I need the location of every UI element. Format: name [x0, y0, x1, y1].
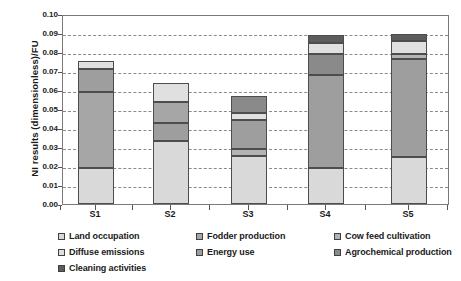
- y-axis-tick-0-04: 0.04: [24, 125, 58, 133]
- legend-swatch-icon: [58, 249, 65, 256]
- legend-swatch-icon: [196, 233, 203, 240]
- bar-segment[interactable]: [231, 113, 267, 121]
- bar-segment[interactable]: [78, 168, 114, 204]
- y-axis-tick-0-05: 0.05: [24, 106, 58, 114]
- y-axis-tick-0-06: 0.06: [24, 87, 58, 95]
- legend-swatch-icon: [334, 249, 341, 256]
- bar-s4[interactable]: [308, 14, 344, 204]
- x-axis-tick-mark: [132, 205, 133, 210]
- x-axis-label-s1: S1: [65, 209, 125, 219]
- x-axis-tick-mark: [209, 205, 210, 210]
- bar-s2[interactable]: [153, 14, 189, 204]
- bar-segment[interactable]: [78, 61, 114, 70]
- bar-segment[interactable]: [231, 149, 267, 156]
- bar-segment[interactable]: [153, 102, 189, 123]
- bar-segment[interactable]: [78, 69, 114, 92]
- bar-segment[interactable]: [391, 41, 427, 54]
- bar-segment[interactable]: [231, 96, 267, 113]
- legend-item[interactable]: Cleaning activities: [58, 263, 196, 273]
- bar-segment[interactable]: [391, 59, 427, 158]
- bar-segment[interactable]: [153, 83, 189, 102]
- legend-label: Cleaning activities: [69, 263, 146, 273]
- legend-item[interactable]: Energy use: [196, 247, 334, 257]
- x-axis-label-s4: S4: [295, 209, 355, 219]
- y-axis-tick-0-00: 0.00: [24, 201, 58, 209]
- bar-segment[interactable]: [308, 168, 344, 204]
- x-axis-label-s2: S2: [140, 209, 200, 219]
- legend-item[interactable]: Cow feed cultivation: [334, 231, 456, 241]
- legend-label: Energy use: [207, 247, 255, 257]
- x-axis-tick-mark: [365, 205, 366, 210]
- legend-swatch-icon: [334, 233, 341, 240]
- bar-segment[interactable]: [308, 75, 344, 168]
- y-axis-tick-0-02: 0.02: [24, 163, 58, 171]
- bar-s1[interactable]: [78, 14, 114, 204]
- plot-area: [62, 15, 449, 205]
- x-axis-tick-mark: [447, 205, 448, 210]
- legend-label: Agrochemical production: [345, 247, 452, 257]
- legend-label: Diffuse emissions: [69, 247, 144, 257]
- x-axis-label-s3: S3: [218, 209, 278, 219]
- bar-s3[interactable]: [231, 14, 267, 204]
- bar-segment[interactable]: [391, 157, 427, 204]
- legend-item[interactable]: Fodder production: [196, 231, 334, 241]
- x-axis-tick-mark: [60, 205, 61, 210]
- y-axis-tick-0-03: 0.03: [24, 144, 58, 152]
- bar-segment[interactable]: [391, 54, 427, 59]
- legend-swatch-icon: [196, 249, 203, 256]
- bar-segment[interactable]: [308, 43, 344, 54]
- bar-segment[interactable]: [231, 120, 267, 149]
- y-axis-tick-0-01: 0.01: [24, 182, 58, 190]
- chart-legend: Land occupationFodder productionCow feed…: [58, 228, 456, 276]
- chart-container: NI results (dimensionless)/FU 0.100.090.…: [0, 0, 461, 281]
- bar-segment[interactable]: [153, 123, 189, 141]
- x-axis-tick-mark: [287, 205, 288, 210]
- legend-swatch-icon: [58, 265, 65, 272]
- x-axis-label-s5: S5: [378, 209, 438, 219]
- bar-segment[interactable]: [308, 35, 344, 43]
- bar-segment[interactable]: [153, 141, 189, 204]
- bar-segment[interactable]: [391, 34, 427, 41]
- legend-label: Fodder production: [207, 231, 285, 241]
- y-axis-tick-0-07: 0.07: [24, 68, 58, 76]
- legend-item[interactable]: Diffuse emissions: [58, 247, 196, 257]
- bar-segment[interactable]: [231, 156, 267, 204]
- legend-item[interactable]: Agrochemical production: [334, 247, 456, 257]
- legend-label: Cow feed cultivation: [345, 231, 431, 241]
- legend-label: Land occupation: [69, 231, 140, 241]
- legend-item[interactable]: Land occupation: [58, 231, 196, 241]
- y-axis-tick-0-08: 0.08: [24, 49, 58, 57]
- legend-swatch-icon: [58, 233, 65, 240]
- y-axis-tick-0-10: 0.10: [24, 11, 58, 19]
- y-axis-tick-0-09: 0.09: [24, 30, 58, 38]
- bar-segment[interactable]: [308, 54, 344, 75]
- bar-s5[interactable]: [391, 14, 427, 204]
- bar-segment[interactable]: [78, 92, 114, 168]
